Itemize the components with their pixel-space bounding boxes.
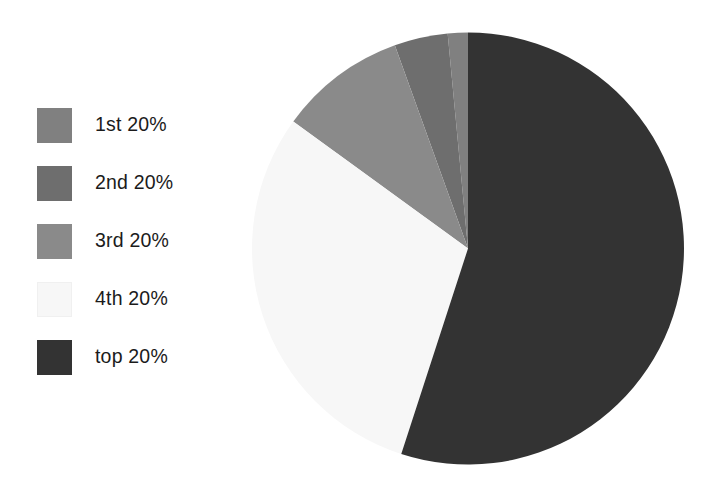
legend-swatch-top <box>37 340 72 375</box>
legend-label-1st: 1st 20% <box>95 115 167 135</box>
legend-swatch-4th <box>37 282 72 317</box>
legend-label-top: top 20% <box>95 347 168 367</box>
legend-item-3rd: 3rd 20% <box>37 212 247 270</box>
chart-legend: 1st 20% 2nd 20% 3rd 20% 4th 20% top 20% <box>37 96 247 386</box>
pie-slice-group <box>252 33 684 465</box>
legend-item-top: top 20% <box>37 328 247 386</box>
legend-label-4th: 4th 20% <box>95 289 168 309</box>
legend-item-4th: 4th 20% <box>37 270 247 328</box>
legend-item-2nd: 2nd 20% <box>37 154 247 212</box>
legend-label-2nd: 2nd 20% <box>95 173 173 193</box>
legend-swatch-1st <box>37 108 72 143</box>
pie-chart <box>252 32 684 465</box>
pie-chart-svg <box>252 32 684 465</box>
legend-swatch-3rd <box>37 224 72 259</box>
legend-swatch-2nd <box>37 166 72 201</box>
legend-label-3rd: 3rd 20% <box>95 231 169 251</box>
chart-page: 1st 20% 2nd 20% 3rd 20% 4th 20% top 20% <box>0 0 726 480</box>
legend-item-1st: 1st 20% <box>37 96 247 154</box>
